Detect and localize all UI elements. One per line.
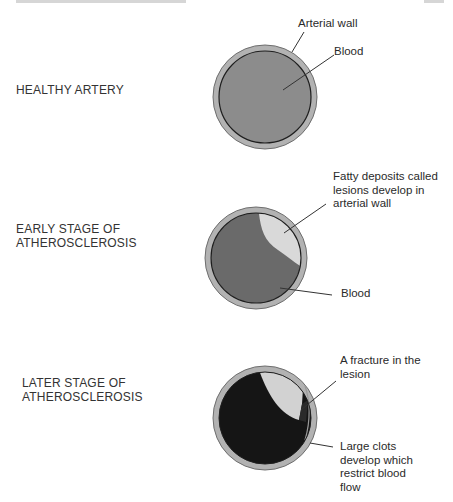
callout-blood-healthy: Blood	[334, 45, 363, 59]
later-stage-cross-section	[213, 366, 336, 470]
leader-line-arterial-wall	[292, 32, 304, 52]
label-later-stage: LATER STAGE OF ATHEROSCLEROSIS	[22, 376, 143, 404]
label-healthy-artery: HEALTHY ARTERY	[16, 83, 124, 97]
callout-arterial-wall: Arterial wall	[298, 17, 357, 31]
callout-large-clots: Large clots develop which restrict blood…	[340, 440, 413, 494]
leader-line-clots	[310, 443, 333, 447]
early-stage-cross-section	[205, 204, 332, 309]
leader-line-lesion	[284, 204, 326, 233]
callout-fatty-deposits: Fatty deposits called lesions develop in…	[333, 170, 438, 211]
label-early-stage: EARLY STAGE OF ATHEROSCLEROSIS	[16, 222, 137, 250]
callout-blood-early: Blood	[341, 287, 370, 301]
healthy-artery-cross-section	[213, 32, 334, 149]
callout-fracture: A fracture in the lesion	[340, 354, 421, 381]
artery-diagram	[0, 0, 453, 502]
